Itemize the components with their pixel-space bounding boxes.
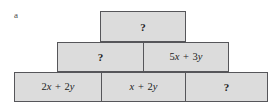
pyramid-brick-middle-1[interactable]: ? — [58, 43, 143, 71]
part-label-a: a — [14, 10, 18, 21]
pyramid-brick-middle-2[interactable]: 5x + 3y — [143, 43, 228, 71]
pyramid-row-top: ? — [100, 11, 186, 42]
brick-value-bottom-3: ? — [224, 81, 230, 93]
pyramid-brick-bottom-2[interactable]: x + 2y — [101, 73, 185, 101]
brick-value-bottom-2: x + 2y — [130, 81, 158, 93]
pyramid-row-bottom: 2x + 2y x + 2y ? — [14, 72, 268, 102]
brick-value-bottom-1: 2x + 2y — [41, 81, 74, 93]
pyramid-brick-bottom-1[interactable]: 2x + 2y — [15, 73, 101, 101]
algebra-pyramid-diagram: a ? ? 5x + 3y 2x + 2y x + 2y ? — [0, 0, 274, 110]
pyramid-brick-bottom-3[interactable]: ? — [185, 73, 267, 101]
brick-value-top-1: ? — [140, 21, 146, 33]
pyramid-brick-top-1[interactable]: ? — [101, 12, 185, 41]
brick-value-middle-1: ? — [98, 51, 104, 63]
brick-value-middle-2: 5x + 3y — [169, 51, 202, 63]
pyramid-row-middle: ? 5x + 3y — [57, 42, 229, 72]
